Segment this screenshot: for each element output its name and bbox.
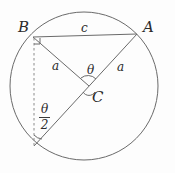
angle-label-half-theta: θ 2: [39, 103, 50, 131]
half-theta-denominator: 2: [40, 119, 50, 132]
point-label-C: C: [92, 90, 103, 105]
point-label-B: B: [18, 20, 29, 35]
half-theta-numerator: θ: [40, 103, 49, 116]
point-label-A: A: [143, 20, 154, 35]
side-label-a-right: a: [117, 61, 124, 73]
side-label-c: c: [81, 22, 88, 34]
side-label-a-left: a: [52, 60, 59, 72]
geometry-figure: B A C c a a θ θ 2: [0, 0, 175, 173]
segment-radius-CB: [33, 37, 89, 86]
angle-label-theta: θ: [87, 64, 94, 76]
angle-arc-half-theta-at-D: [34, 135, 42, 139]
